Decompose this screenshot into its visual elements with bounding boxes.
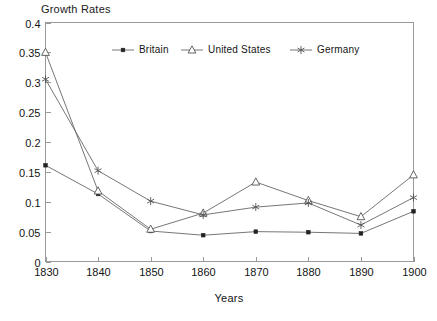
data-point-marker: [42, 48, 50, 55]
legend-item-united-states[interactable]: United States: [181, 44, 271, 55]
growth-rates-chart: Growth Rates 00.050.10.150.20.250.30.350…: [0, 0, 437, 321]
data-point-marker: [254, 230, 258, 234]
data-point-marker: [252, 178, 260, 185]
data-point-marker: [44, 164, 48, 168]
data-point-marker: [121, 48, 125, 52]
series-layer: [42, 48, 418, 237]
y-tick-label: 0.1: [25, 197, 40, 209]
x-tick-group: 18301840185018601870188018901900: [34, 257, 426, 278]
data-point-marker: [410, 194, 417, 202]
chart-legend: BritainUnited StatesGermany: [112, 44, 360, 55]
legend-label: Britain: [139, 44, 169, 55]
x-axis: 18301840185018601870188018901900: [34, 257, 426, 278]
y-tick-label: 0.05: [19, 227, 40, 239]
data-point-marker: [410, 171, 418, 178]
data-point-marker: [94, 187, 102, 194]
x-tick-label: 1850: [139, 266, 163, 278]
y-tick-label: 0.15: [19, 167, 40, 179]
data-point-marker: [95, 167, 102, 175]
x-tick-label: 1840: [86, 266, 110, 278]
y-tick-label: 0.25: [19, 107, 40, 119]
y-tick-label: 0.2: [25, 137, 40, 149]
legend-item-germany[interactable]: Germany: [290, 44, 360, 55]
y-tick-label: 0.3: [25, 77, 40, 89]
legend-label: United States: [208, 44, 271, 55]
x-tick-label: 1890: [349, 266, 373, 278]
x-tick-label: 1830: [34, 266, 58, 278]
plot-frame: [46, 23, 414, 262]
data-point-marker: [359, 232, 363, 236]
data-point-marker: [147, 197, 154, 205]
legend-item-britain[interactable]: Britain: [112, 44, 169, 55]
x-axis-title: Years: [214, 292, 243, 304]
data-point-marker: [357, 221, 364, 229]
y-tick-label: 0.4: [25, 18, 40, 30]
series-line: [46, 79, 414, 225]
chart-canvas: 00.050.10.150.20.250.30.350.4 1830184018…: [0, 0, 437, 321]
legend-label: Germany: [317, 44, 360, 55]
data-point-marker: [188, 46, 196, 53]
x-tick-label: 1900: [402, 266, 426, 278]
y-tick-label: 0.35: [19, 47, 40, 59]
x-tick-label: 1860: [191, 266, 215, 278]
series-united-states: [42, 48, 418, 232]
series-line: [46, 52, 414, 229]
data-point-marker: [307, 230, 311, 234]
series-germany: [42, 75, 417, 229]
data-point-marker: [412, 210, 416, 214]
data-point-marker: [201, 233, 205, 237]
x-tick-label: 1880: [296, 266, 320, 278]
series-line: [46, 165, 414, 235]
x-tick-label: 1870: [244, 266, 268, 278]
